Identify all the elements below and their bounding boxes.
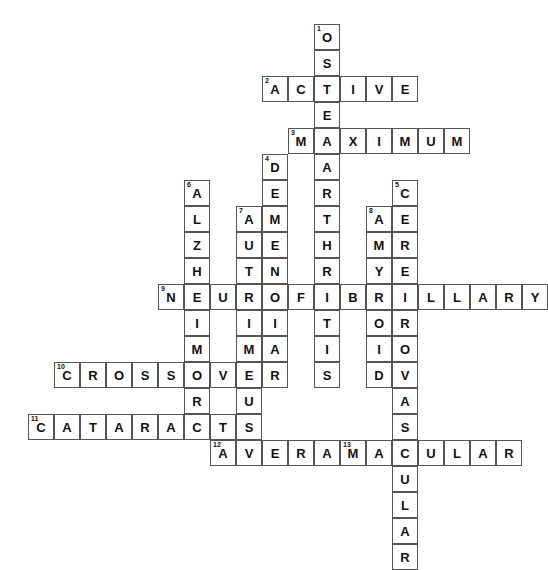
crossword-cell[interactable]: R: [314, 180, 340, 206]
crossword-cell[interactable]: T: [314, 206, 340, 232]
crossword-cell[interactable]: H: [184, 258, 210, 284]
crossword-cell[interactable]: E: [236, 362, 262, 388]
crossword-cell[interactable]: I: [314, 336, 340, 362]
crossword-cell[interactable]: S: [392, 414, 418, 440]
crossword-cell[interactable]: B: [340, 284, 366, 310]
crossword-cell[interactable]: U: [210, 284, 236, 310]
crossword-cell[interactable]: A: [106, 414, 132, 440]
crossword-cell[interactable]: 2A: [262, 76, 288, 102]
crossword-cell[interactable]: 11C: [28, 414, 54, 440]
crossword-cell[interactable]: L: [444, 440, 470, 466]
crossword-cell[interactable]: R: [366, 284, 392, 310]
crossword-cell[interactable]: 4D: [262, 154, 288, 180]
crossword-cell[interactable]: M: [366, 232, 392, 258]
crossword-cell[interactable]: R: [392, 544, 418, 570]
crossword-cell[interactable]: X: [340, 128, 366, 154]
crossword-cell[interactable]: R: [392, 310, 418, 336]
crossword-cell[interactable]: C: [184, 414, 210, 440]
crossword-cell[interactable]: T: [210, 414, 236, 440]
crossword-cell[interactable]: R: [262, 362, 288, 388]
crossword-cell[interactable]: H: [314, 232, 340, 258]
crossword-cell[interactable]: M: [444, 128, 470, 154]
crossword-cell[interactable]: A: [314, 440, 340, 466]
crossword-cell[interactable]: T: [314, 310, 340, 336]
crossword-cell[interactable]: U: [418, 440, 444, 466]
crossword-cell[interactable]: R: [80, 362, 106, 388]
crossword-cell[interactable]: 3M: [288, 128, 314, 154]
crossword-cell[interactable]: V: [210, 362, 236, 388]
crossword-cell[interactable]: E: [262, 232, 288, 258]
crossword-cell[interactable]: E: [392, 76, 418, 102]
crossword-cell[interactable]: R: [288, 440, 314, 466]
crossword-cell[interactable]: Y: [366, 258, 392, 284]
crossword-cell[interactable]: 12A: [210, 440, 236, 466]
crossword-cell[interactable]: T: [80, 414, 106, 440]
crossword-cell[interactable]: I: [340, 76, 366, 102]
crossword-cell[interactable]: 8A: [366, 206, 392, 232]
crossword-cell[interactable]: I: [366, 336, 392, 362]
crossword-cell[interactable]: 5C: [392, 180, 418, 206]
crossword-cell[interactable]: A: [392, 518, 418, 544]
crossword-cell[interactable]: E: [262, 180, 288, 206]
crossword-cell[interactable]: I: [314, 284, 340, 310]
crossword-cell[interactable]: I: [392, 284, 418, 310]
crossword-cell[interactable]: O: [106, 362, 132, 388]
crossword-cell[interactable]: I: [236, 310, 262, 336]
crossword-cell[interactable]: R: [184, 388, 210, 414]
crossword-cell[interactable]: U: [236, 388, 262, 414]
crossword-cell[interactable]: R: [392, 232, 418, 258]
crossword-cell[interactable]: Y: [522, 284, 548, 310]
crossword-cell[interactable]: S: [236, 414, 262, 440]
crossword-cell[interactable]: 10C: [54, 362, 80, 388]
crossword-cell[interactable]: N: [262, 258, 288, 284]
crossword-cell[interactable]: A: [314, 154, 340, 180]
crossword-cell[interactable]: T: [236, 258, 262, 284]
crossword-cell[interactable]: F: [288, 284, 314, 310]
crossword-cell[interactable]: 6A: [184, 180, 210, 206]
crossword-cell[interactable]: I: [366, 128, 392, 154]
crossword-cell[interactable]: I: [262, 310, 288, 336]
crossword-cell[interactable]: L: [444, 284, 470, 310]
crossword-cell[interactable]: S: [132, 362, 158, 388]
crossword-cell[interactable]: C: [288, 76, 314, 102]
crossword-cell[interactable]: 7A: [236, 206, 262, 232]
crossword-cell[interactable]: M: [184, 336, 210, 362]
crossword-cell[interactable]: E: [392, 258, 418, 284]
crossword-cell[interactable]: R: [132, 414, 158, 440]
crossword-cell[interactable]: O: [262, 284, 288, 310]
crossword-cell[interactable]: A: [158, 414, 184, 440]
crossword-cell[interactable]: U: [418, 128, 444, 154]
crossword-cell[interactable]: A: [470, 440, 496, 466]
crossword-cell[interactable]: U: [392, 466, 418, 492]
crossword-cell[interactable]: M: [262, 206, 288, 232]
crossword-cell[interactable]: D: [366, 362, 392, 388]
crossword-cell[interactable]: A: [366, 440, 392, 466]
crossword-cell[interactable]: A: [470, 284, 496, 310]
crossword-cell[interactable]: M: [236, 336, 262, 362]
crossword-cell[interactable]: A: [314, 128, 340, 154]
crossword-cell[interactable]: A: [262, 336, 288, 362]
crossword-cell[interactable]: R: [314, 258, 340, 284]
crossword-cell[interactable]: V: [236, 440, 262, 466]
crossword-cell[interactable]: V: [366, 76, 392, 102]
crossword-cell[interactable]: Z: [184, 232, 210, 258]
crossword-cell[interactable]: L: [392, 492, 418, 518]
crossword-cell[interactable]: L: [418, 284, 444, 310]
crossword-cell[interactable]: U: [236, 232, 262, 258]
crossword-cell[interactable]: A: [392, 388, 418, 414]
crossword-cell[interactable]: S: [158, 362, 184, 388]
crossword-cell[interactable]: O: [366, 310, 392, 336]
crossword-cell[interactable]: E: [262, 440, 288, 466]
crossword-cell[interactable]: O: [184, 362, 210, 388]
crossword-cell[interactable]: E: [314, 102, 340, 128]
crossword-cell[interactable]: R: [496, 284, 522, 310]
crossword-cell[interactable]: L: [184, 206, 210, 232]
crossword-cell[interactable]: R: [236, 284, 262, 310]
crossword-cell[interactable]: R: [496, 440, 522, 466]
crossword-cell[interactable]: C: [392, 440, 418, 466]
crossword-cell[interactable]: 9N: [158, 284, 184, 310]
crossword-cell[interactable]: M: [392, 128, 418, 154]
crossword-cell[interactable]: A: [54, 414, 80, 440]
crossword-cell[interactable]: S: [314, 362, 340, 388]
